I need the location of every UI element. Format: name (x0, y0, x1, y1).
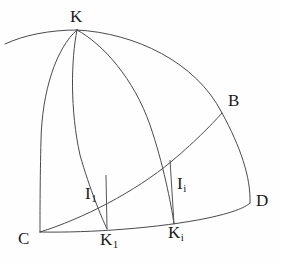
geometric-diagram-svg (0, 0, 281, 266)
figure-canvas: K B D C I1 Ii K1 Ki (0, 0, 281, 266)
label-point-Ii: Ii (177, 175, 186, 192)
arc-K-to-D-outer-curve (77, 30, 250, 203)
label-point-K1: K1 (100, 231, 118, 248)
label-point-C: C (18, 230, 29, 247)
label-point-D: D (256, 192, 268, 209)
label-point-I1: I1 (85, 185, 96, 202)
label-point-K1-subscript: 1 (113, 238, 119, 250)
arc-C-to-B-curve (40, 113, 222, 232)
ordinate-segment-i (170, 160, 174, 224)
label-point-K: K (70, 8, 82, 25)
label-point-I1-subscript: 1 (91, 192, 97, 204)
label-point-B: B (228, 92, 239, 109)
ordinate-segment-1 (106, 175, 107, 229)
arc-C-to-D-base-curve (40, 203, 250, 232)
arc-K-to-C-curve (40, 30, 77, 232)
label-point-Ii-subscript: i (183, 182, 186, 194)
label-point-Ki-subscript: i (181, 231, 184, 243)
label-point-Ki: Ki (168, 224, 183, 241)
